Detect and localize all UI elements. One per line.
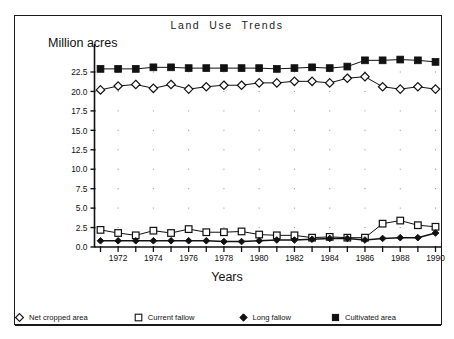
data-point-marker — [273, 79, 281, 87]
grid-dot — [435, 208, 436, 209]
legend-item-long-fallow: Long fallow — [239, 313, 291, 322]
y-tick-label: 0.0 — [76, 242, 88, 252]
data-point-marker — [185, 237, 192, 244]
grid-dot — [435, 169, 436, 170]
data-point-marker — [256, 237, 263, 244]
data-point-marker — [203, 65, 210, 72]
x-tick-label: 1986 — [356, 253, 375, 263]
x-axis-ticks: 1972197419761978198019821984198619881990 — [101, 246, 446, 263]
grid-dot — [188, 110, 189, 111]
data-point-marker — [432, 230, 439, 237]
y-tick-label: 15.0 — [71, 126, 88, 136]
grid-dot — [188, 208, 189, 209]
grid-dot — [364, 91, 365, 92]
data-point-marker — [378, 83, 386, 91]
data-point-marker — [290, 77, 298, 85]
grid-dot — [400, 208, 401, 209]
grid-dot — [400, 169, 401, 170]
series-net-cropped-area — [96, 72, 439, 94]
grid-dot — [153, 169, 154, 170]
data-point-marker — [379, 235, 386, 242]
data-point-marker — [132, 65, 139, 72]
grid-dot — [400, 110, 401, 111]
data-point-marker — [397, 56, 404, 63]
data-point-marker — [291, 65, 298, 72]
open-diamond-icon — [15, 313, 24, 322]
data-point-marker — [132, 80, 140, 88]
y-axis-ticks: 0.02.55.07.510.012.515.017.520.022.5 — [71, 67, 95, 252]
data-point-marker — [150, 64, 157, 71]
data-point-marker — [308, 77, 316, 85]
grid-dot — [329, 149, 330, 150]
data-point-marker — [343, 74, 351, 82]
grid-dot — [400, 130, 401, 131]
data-point-marker — [238, 238, 245, 245]
chart-legend: Net cropped area Current fallow Long fal… — [15, 309, 441, 325]
data-point-marker — [397, 234, 404, 241]
grid-dots — [118, 72, 436, 229]
grid-dot — [223, 208, 224, 209]
grid-dot — [223, 110, 224, 111]
grid-dot — [435, 72, 436, 73]
data-point-marker — [97, 227, 104, 234]
grid-dot — [294, 91, 295, 92]
figure-container: Land Use Trends Million acres Years 0.02… — [0, 0, 454, 339]
data-point-marker — [150, 237, 157, 244]
grid-dot — [188, 130, 189, 131]
grid-dot — [259, 149, 260, 150]
grid-dot — [364, 110, 365, 111]
x-tick-label: 1976 — [179, 253, 198, 263]
grid-dot — [400, 188, 401, 189]
data-point-marker — [167, 80, 175, 88]
data-point-marker — [414, 83, 422, 91]
grid-dot — [118, 227, 119, 228]
data-point-marker — [221, 229, 228, 236]
grid-dot — [118, 130, 119, 131]
grid-dot — [259, 91, 260, 92]
grid-dot — [118, 91, 119, 92]
x-tick-label: 1978 — [215, 253, 234, 263]
grid-dot — [364, 169, 365, 170]
grid-dot — [188, 169, 189, 170]
grid-dot — [400, 149, 401, 150]
legend-item-cultivated-area: Cultivated area — [331, 313, 396, 322]
plot-canvas: 0.02.55.07.510.012.515.017.520.022.51972… — [0, 0, 454, 339]
data-point-marker — [97, 65, 104, 72]
grid-dot — [364, 208, 365, 209]
data-point-marker — [114, 82, 122, 90]
grid-dot — [188, 188, 189, 189]
grid-dot — [329, 188, 330, 189]
grid-dot — [153, 110, 154, 111]
legend-label: Net cropped area — [29, 313, 88, 322]
grid-dot — [400, 72, 401, 73]
grid-dot — [259, 130, 260, 131]
data-point-marker — [309, 64, 316, 71]
grid-dot — [329, 91, 330, 92]
data-point-marker — [273, 65, 280, 72]
grid-dot — [153, 130, 154, 131]
legend-label: Cultivated area — [345, 313, 396, 322]
data-point-marker — [149, 84, 157, 92]
filled-square-icon — [331, 313, 340, 322]
data-point-marker — [415, 234, 422, 241]
data-point-marker — [361, 72, 369, 80]
grid-dot — [435, 130, 436, 131]
y-tick-label: 22.5 — [71, 67, 88, 77]
grid-dot — [223, 227, 224, 228]
y-tick-label: 5.0 — [76, 203, 88, 213]
grid-dot — [294, 227, 295, 228]
data-point-marker — [221, 238, 228, 245]
grid-dot — [188, 149, 189, 150]
x-tick-label: 1974 — [144, 253, 163, 263]
x-tick-label: 1990 — [426, 253, 445, 263]
data-point-marker — [202, 83, 210, 91]
grid-dot — [153, 188, 154, 189]
legend-label: Long fallow — [253, 313, 291, 322]
filled-diamond-icon — [239, 313, 248, 322]
legend-item-current-fallow: Current fallow — [134, 313, 195, 322]
legend-item-net-cropped-area: Net cropped area — [15, 313, 88, 322]
y-tick-label: 2.5 — [76, 223, 88, 233]
data-point-marker — [97, 237, 104, 244]
data-point-marker — [326, 79, 334, 87]
series-cultivated-area — [97, 56, 439, 72]
